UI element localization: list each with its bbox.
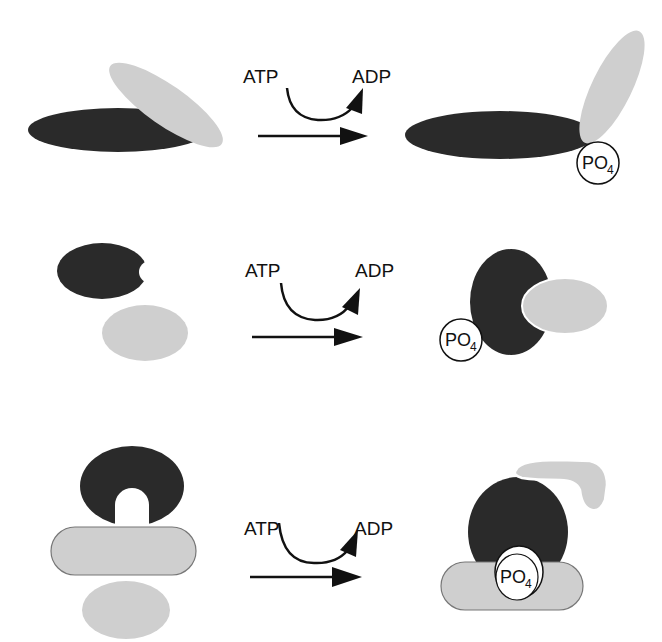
reaction-arrows-3: ATP ADP [244, 518, 393, 587]
atp-label: ATP [244, 518, 280, 539]
row-1: ATP ADP PO 4 [28, 23, 657, 184]
light-protein-domain [567, 23, 657, 152]
cofactor-arrowhead [340, 530, 358, 557]
light-partner-protein [102, 305, 188, 361]
po-label: PO [445, 330, 471, 350]
reaction-arrowhead [334, 328, 363, 346]
reactants-3 [51, 446, 196, 639]
po-subscript: 4 [525, 577, 532, 591]
cofactor-curved-arrow [279, 523, 348, 563]
dark-protein-with-binding-pocket [57, 243, 147, 299]
po-label: PO [500, 567, 526, 587]
light-scaffold-protein [51, 527, 196, 575]
cofactor-curved-arrow [287, 88, 352, 120]
product-complex-1: PO 4 [405, 23, 657, 184]
light-partner-protein [522, 278, 608, 334]
atp-label: ATP [243, 66, 279, 87]
po-subscript: 4 [607, 163, 614, 177]
po-label: PO [582, 153, 608, 173]
atp-label: ATP [245, 260, 281, 281]
product-complex-2: PO 4 [440, 249, 608, 361]
light-substrate-protein [82, 581, 170, 639]
reaction-arrowhead [340, 127, 368, 145]
reaction-arrowhead [332, 567, 362, 587]
row-3: ATP ADP PO 4 [51, 446, 607, 639]
dark-protein [405, 111, 595, 159]
adp-label: ADP [352, 66, 391, 87]
reaction-arrows-2: ATP ADP [245, 260, 394, 346]
reactant-complex-1 [28, 50, 233, 161]
phosphate-group: PO 4 [577, 142, 619, 184]
dark-protein-with-docking-pocket [80, 446, 184, 526]
cofactor-curved-arrow [281, 283, 350, 320]
reaction-arrows-1: ATP ADP [243, 66, 391, 145]
product-complex-3: PO 4 [441, 460, 607, 610]
reactants-2 [57, 243, 188, 361]
po-subscript: 4 [470, 340, 477, 354]
phosphorylation-diagram: ATP ADP PO 4 ATP ADP [0, 0, 662, 642]
adp-label: ADP [354, 518, 393, 539]
phosphate-group: PO 4 [440, 319, 482, 361]
adp-label: ADP [355, 260, 394, 281]
row-2: ATP ADP PO 4 [57, 243, 608, 361]
